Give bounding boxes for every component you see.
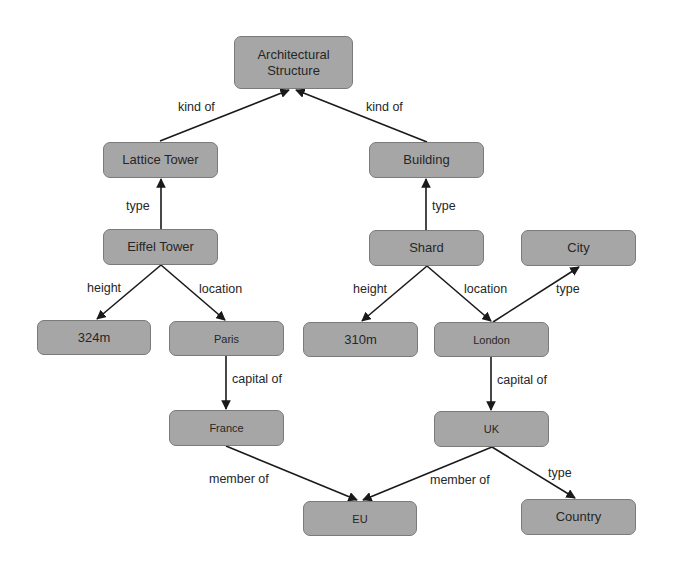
edge-label-uk-type: type [548,466,572,480]
edge-label-eiffel-type: type [126,199,150,213]
edge-building-kind-of [296,90,427,142]
node-uk[interactable]: UK [434,411,549,447]
edge-label-lattice-kind-of: kind of [178,100,215,114]
node-label: Lattice Tower [122,152,198,168]
edge-label-eiffel-height: height [87,281,121,295]
edge-label-shard-location: location [464,282,507,296]
node-eu[interactable]: EU [303,501,417,536]
node-paris[interactable]: Paris [169,321,284,356]
edge-label-london-type: type [556,282,580,296]
node-label: EU [352,511,367,527]
node-eiffel-tower[interactable]: Eiffel Tower [103,229,218,265]
node-label: Building [403,152,449,168]
node-label: 310m [344,332,377,348]
node-label: Eiffel Tower [127,239,194,255]
node-france[interactable]: France [169,410,284,446]
node-label: UK [484,421,499,437]
node-label: London [473,332,510,348]
edge-label-building-kind-of: kind of [366,100,403,114]
edge-label-uk-member-of: member of [430,473,490,487]
edge-label-shard-type: type [432,199,456,213]
node-london[interactable]: London [434,322,549,357]
node-label: Shard [409,240,444,256]
node-label: Country [556,509,602,525]
knowledge-graph-diagram: Architectural Structure Lattice Tower Bu… [0,0,673,565]
node-shard[interactable]: Shard [369,230,484,266]
node-lattice-tower[interactable]: Lattice Tower [103,142,218,178]
node-324m[interactable]: 324m [37,320,151,355]
node-label: France [209,420,243,436]
node-label: 324m [78,330,111,346]
node-label: City [567,240,589,256]
node-label: Architectural Structure [257,47,329,79]
edge-label-france-member-of: member of [209,472,269,486]
edge-label-eiffel-location: location [199,282,242,296]
node-city[interactable]: City [521,230,636,266]
edge-label-shard-height: height [353,282,387,296]
node-label: Paris [214,331,239,347]
edge-label-london-capital-of: capital of [497,373,547,387]
node-country[interactable]: Country [521,499,636,535]
edge-lattice-kind-of [160,90,289,141]
node-building[interactable]: Building [369,142,484,178]
node-architectural-structure[interactable]: Architectural Structure [234,36,353,89]
edge-label-paris-capital-of: capital of [232,372,282,386]
node-310m[interactable]: 310m [303,322,418,357]
